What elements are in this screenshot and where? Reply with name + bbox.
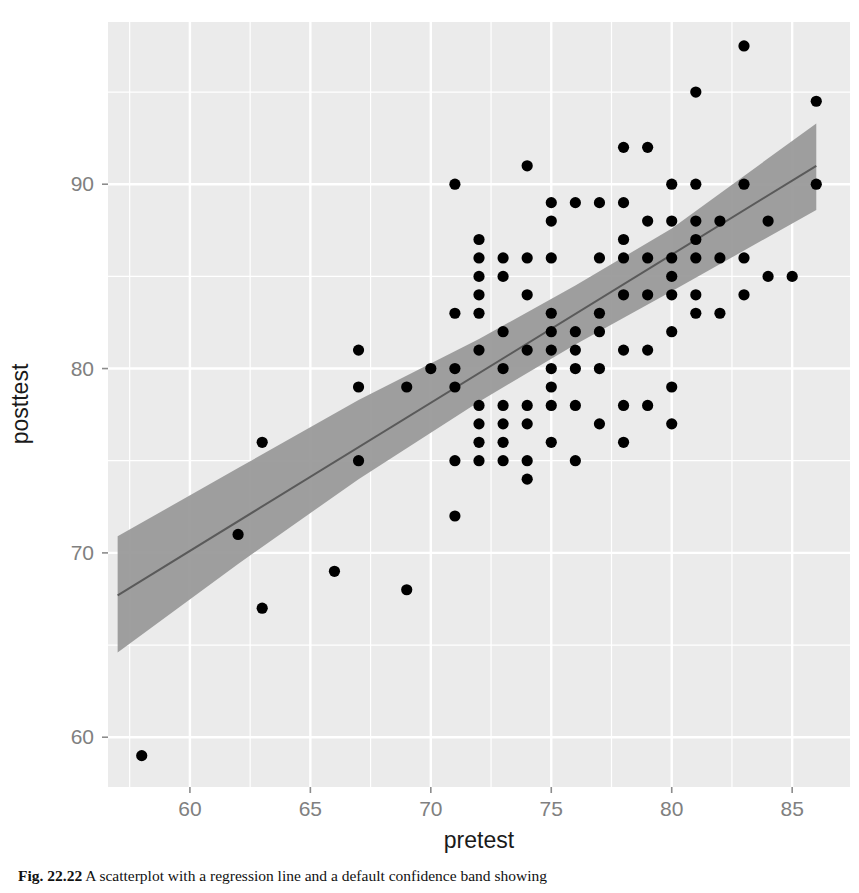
data-point: [353, 345, 364, 356]
data-point: [546, 197, 557, 208]
data-point: [666, 252, 677, 263]
data-point: [618, 252, 629, 263]
data-point: [642, 289, 653, 300]
data-point: [618, 400, 629, 411]
data-point: [449, 308, 460, 319]
data-point: [473, 308, 484, 319]
data-point: [522, 160, 533, 171]
data-point: [473, 455, 484, 466]
y-tick-label: 90: [71, 172, 94, 195]
data-point: [738, 40, 749, 51]
data-point: [522, 289, 533, 300]
data-point: [329, 566, 340, 577]
data-point: [690, 234, 701, 245]
data-point: [449, 363, 460, 374]
scatter-plot-svg: 606570758085 60708090 pretest posttest: [0, 0, 859, 893]
x-tick-label: 80: [660, 797, 683, 820]
data-point: [353, 455, 364, 466]
data-point: [642, 142, 653, 153]
y-axis-title: posttest: [7, 363, 33, 444]
figure-caption: Fig. 22.22 A scatterplot with a regressi…: [18, 866, 843, 893]
data-point: [594, 197, 605, 208]
data-point: [497, 271, 508, 282]
x-tick-label: 75: [540, 797, 563, 820]
data-point: [570, 363, 581, 374]
data-point: [546, 326, 557, 337]
data-point: [546, 345, 557, 356]
data-point: [690, 252, 701, 263]
data-point: [449, 455, 460, 466]
y-tick-label: 60: [71, 725, 94, 748]
data-point: [811, 179, 822, 190]
data-point: [401, 584, 412, 595]
data-point: [690, 289, 701, 300]
data-point: [714, 308, 725, 319]
data-point: [690, 86, 701, 97]
data-point: [497, 437, 508, 448]
data-point: [473, 234, 484, 245]
data-point: [546, 381, 557, 392]
data-point: [570, 400, 581, 411]
data-point: [546, 215, 557, 226]
data-point: [473, 437, 484, 448]
data-point: [257, 603, 268, 614]
data-point: [546, 400, 557, 411]
figure-caption-text: A scatterplot with a regression line and…: [85, 867, 547, 884]
data-point: [497, 326, 508, 337]
data-point: [497, 418, 508, 429]
data-point: [594, 418, 605, 429]
x-axis-title: pretest: [444, 827, 515, 853]
data-point: [811, 96, 822, 107]
figure-caption-label: Fig. 22.22: [18, 867, 82, 884]
data-point: [473, 345, 484, 356]
data-point: [714, 215, 725, 226]
data-point: [738, 179, 749, 190]
y-tick-label: 80: [71, 357, 94, 380]
data-point: [618, 345, 629, 356]
data-point: [473, 271, 484, 282]
data-point: [714, 252, 725, 263]
data-point: [762, 271, 773, 282]
data-point: [666, 179, 677, 190]
data-point: [497, 363, 508, 374]
data-point: [136, 750, 147, 761]
x-tick-label: 70: [419, 797, 442, 820]
data-point: [546, 308, 557, 319]
data-point: [522, 252, 533, 263]
data-point: [618, 197, 629, 208]
data-point: [353, 381, 364, 392]
data-point: [497, 252, 508, 263]
data-point: [522, 455, 533, 466]
y-axis-tick-labels: 60708090: [71, 172, 94, 748]
x-tick-label: 60: [178, 797, 201, 820]
data-point: [690, 308, 701, 319]
data-point: [787, 271, 798, 282]
data-point: [618, 142, 629, 153]
data-point: [618, 289, 629, 300]
data-point: [738, 252, 749, 263]
data-point: [257, 437, 268, 448]
data-point: [642, 252, 653, 263]
figure-container: 606570758085 60708090 pretest posttest F…: [0, 0, 859, 893]
data-point: [473, 289, 484, 300]
data-point: [449, 179, 460, 190]
data-point: [570, 455, 581, 466]
data-point: [522, 418, 533, 429]
data-point: [497, 455, 508, 466]
data-point: [618, 234, 629, 245]
data-point: [666, 381, 677, 392]
data-point: [570, 345, 581, 356]
x-axis-tick-labels: 606570758085: [178, 797, 804, 820]
data-point: [594, 308, 605, 319]
data-point: [594, 252, 605, 263]
data-point: [497, 400, 508, 411]
y-tick-label: 70: [71, 541, 94, 564]
data-point: [642, 215, 653, 226]
data-point: [473, 418, 484, 429]
data-point: [618, 437, 629, 448]
data-point: [546, 437, 557, 448]
data-point: [762, 215, 773, 226]
data-point: [690, 179, 701, 190]
data-point: [570, 326, 581, 337]
data-point: [522, 345, 533, 356]
